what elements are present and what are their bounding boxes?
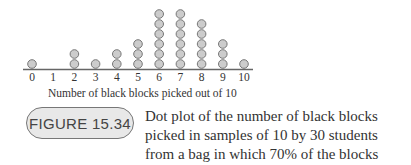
data-dot <box>155 30 164 39</box>
data-dot <box>176 40 185 49</box>
data-dot <box>197 60 206 69</box>
x-tick-label: 8 <box>199 71 205 83</box>
x-tick-label: 7 <box>178 71 184 83</box>
x-tick-label: 6 <box>156 71 162 83</box>
x-tick-label: 10 <box>238 71 250 83</box>
data-dot <box>113 60 122 69</box>
data-dot <box>155 10 164 19</box>
data-dot <box>113 50 122 59</box>
data-dot <box>197 40 206 49</box>
data-dot <box>197 50 206 59</box>
x-tick-label: 1 <box>50 71 56 83</box>
data-dot <box>155 50 164 59</box>
data-dot <box>155 60 164 69</box>
data-dot <box>176 60 185 69</box>
data-dot <box>134 60 143 69</box>
data-dot <box>155 20 164 29</box>
data-dot <box>176 10 185 19</box>
figure-label-badge: FIGURE 15.34 <box>26 107 134 139</box>
data-dot <box>219 40 228 49</box>
data-dot <box>176 30 185 39</box>
data-dot <box>134 40 143 49</box>
x-tick-label: 2 <box>72 71 78 83</box>
data-dot <box>176 20 185 29</box>
x-axis-label: Number of black blocks picked out of 10 <box>48 87 237 99</box>
data-dot <box>197 30 206 39</box>
x-tick-labels: 012345678910 <box>29 71 250 83</box>
x-tick-label: 5 <box>135 71 141 83</box>
data-dot <box>197 20 206 29</box>
dot-series <box>28 10 249 69</box>
data-dot <box>219 60 228 69</box>
figure-caption: Dot plot of the number of black blocks p… <box>145 107 405 165</box>
dot-plot: 012345678910 <box>0 0 411 90</box>
data-dot <box>134 50 143 59</box>
data-dot <box>91 60 100 69</box>
x-tick-label: 4 <box>114 71 120 83</box>
data-dot <box>28 60 37 69</box>
data-dot <box>219 50 228 59</box>
x-tick-label: 9 <box>220 71 226 83</box>
data-dot <box>155 40 164 49</box>
data-dot <box>70 60 79 69</box>
x-tick-label: 3 <box>93 71 99 83</box>
data-dot <box>176 50 185 59</box>
x-tick-label: 0 <box>29 71 35 83</box>
data-dot <box>240 60 249 69</box>
figure-label: FIGURE 15.34 <box>29 115 131 132</box>
data-dot <box>70 50 79 59</box>
